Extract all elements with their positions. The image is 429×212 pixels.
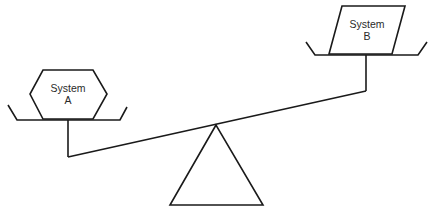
- system-b-label-line1: System: [349, 18, 384, 30]
- system-a-label-line2: A: [64, 94, 71, 106]
- system-b-label-line2: B: [363, 30, 370, 42]
- balance-scale-diagram: System A System B: [0, 0, 429, 212]
- system-a-label-line1: System: [50, 82, 85, 94]
- pan-system-a: System A: [8, 70, 127, 157]
- pan-system-b: System B: [306, 6, 427, 91]
- fulcrum-triangle: [170, 125, 263, 205]
